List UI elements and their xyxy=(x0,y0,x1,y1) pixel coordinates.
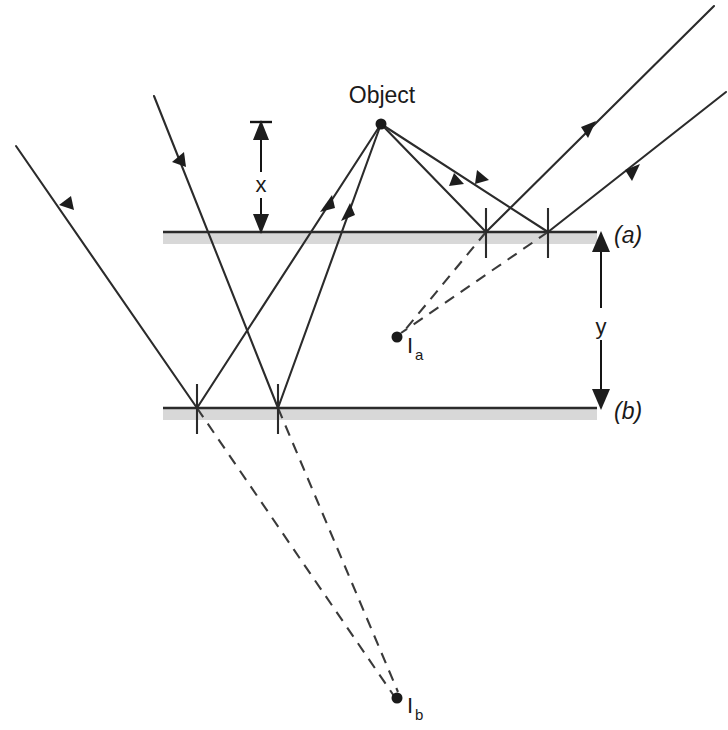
incident-ray-a-2 xyxy=(381,124,548,232)
arrowhead-incident-a-2 xyxy=(475,170,489,184)
image-a-point-marker xyxy=(392,332,403,343)
virtual-rays-image-b xyxy=(197,408,398,696)
reflected-ray-b-1 xyxy=(16,146,197,408)
mirror-a-label: (a) xyxy=(614,222,642,248)
image-b-label-subscript: b xyxy=(415,706,423,723)
image-a-point-group: I a xyxy=(392,332,425,364)
reflected-ray-b-2 xyxy=(154,96,278,408)
image-a-label-subscript: a xyxy=(415,346,424,363)
object-point-marker xyxy=(376,119,387,130)
dimension-y-label: y xyxy=(596,314,607,339)
arrowhead-incident-a-1 xyxy=(449,173,464,186)
mirror-b-group xyxy=(163,408,597,420)
incident-rays-to-mirror-b xyxy=(197,124,381,408)
image-b-label: I xyxy=(407,693,413,718)
arrowhead-reflected-b-1 xyxy=(59,196,74,210)
dimension-y-group: y xyxy=(592,231,610,410)
mirror-b-shading xyxy=(163,409,597,420)
virtual-rays-image-a xyxy=(400,232,548,336)
dimension-x-group: x xyxy=(250,120,272,234)
image-b-point-marker xyxy=(392,693,403,704)
arrowhead-incident-b-2 xyxy=(341,203,355,221)
object-label: Object xyxy=(349,82,416,108)
reflected-rays-from-mirror-b xyxy=(16,96,278,408)
dimension-x-label: x xyxy=(256,172,267,197)
image-b-point-group: I b xyxy=(392,693,424,724)
incident-ray-b-2 xyxy=(278,124,381,408)
object-point-group: Object xyxy=(349,82,416,130)
reflected-ray-a-1 xyxy=(486,6,714,232)
optics-ray-diagram-canvas: x y Object I a I b (a) (b) xyxy=(0,0,728,730)
incident-ray-b-1 xyxy=(197,124,381,408)
incident-rays-to-mirror-a xyxy=(381,124,548,232)
reflected-rays-from-mirror-a xyxy=(486,6,726,232)
incident-ray-a-1 xyxy=(381,124,486,232)
mirror-b-label: (b) xyxy=(614,398,642,424)
reflected-ray-a-2 xyxy=(548,92,726,232)
arrowhead-reflected-b-2 xyxy=(172,152,186,167)
image-a-label: I xyxy=(407,333,413,358)
virtual-ray-a-1 xyxy=(400,232,486,336)
ray-diagram-figure: x y Object I a I b (a) (b) xyxy=(0,0,728,730)
virtual-ray-b-2 xyxy=(278,408,398,692)
